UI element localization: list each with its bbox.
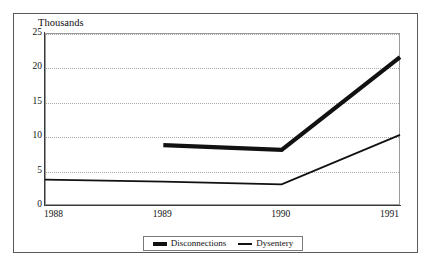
chart-figure: Thousands 0510152025 1988198919901991 Di… [0,0,430,267]
legend-swatch-icon [153,242,167,246]
chart-legend: DisconnectionsDysentery [143,236,303,251]
series-line-disconnections [163,57,400,150]
legend-swatch-icon [238,243,252,245]
legend-label: Disconnections [171,239,227,248]
series-lines [0,0,430,267]
legend-entry: Dysentery [238,239,293,248]
series-line-dysentery [45,135,400,185]
legend-entry: Disconnections [153,239,227,248]
legend-label: Dysentery [256,239,293,248]
